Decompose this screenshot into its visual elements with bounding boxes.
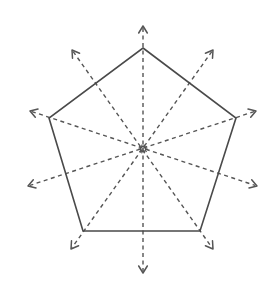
arrow-head-icon: [248, 109, 256, 117]
symmetry-lines: [28, 26, 257, 273]
arrow-head-icon: [249, 180, 257, 188]
arrow-head-icon: [30, 109, 38, 117]
pentagon-symmetry-diagram: [0, 0, 272, 289]
arrow-head-icon: [71, 241, 79, 249]
diagram-canvas: [0, 0, 272, 289]
arrow-head-icon: [28, 180, 36, 188]
